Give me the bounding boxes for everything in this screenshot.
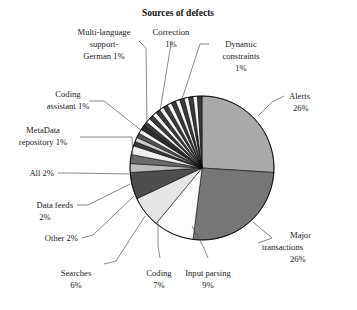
leader-line-metadata-repository	[80, 137, 133, 160]
pie-slices-group	[130, 96, 274, 240]
label-alerts-line1: Alerts	[289, 91, 311, 101]
label-searches: Searches 6%	[61, 268, 92, 290]
label-coding-line1: Coding	[146, 268, 172, 278]
leader-line-coding	[158, 222, 160, 258]
leader-line-data-feeds	[77, 184, 130, 205]
label-alerts: Alerts 26%	[289, 91, 311, 113]
leader-line-searches	[104, 216, 145, 264]
label-all-line1: All 2%	[29, 168, 54, 178]
label-coding-assistant: Coding assistant 1%	[47, 89, 90, 111]
leader-line-all	[58, 173, 129, 174]
label-correction-line2: 1%	[165, 39, 176, 49]
label-dynamic-constraints: Dynamic constraints 1%	[222, 39, 260, 73]
label-input-parsing: Input parsing 9%	[185, 268, 231, 290]
label-all: All 2%	[29, 168, 54, 178]
label-coding-line2: 7%	[153, 280, 164, 290]
label-metadata-repository: MetaData repository 1%	[19, 125, 67, 147]
label-major-line2: transactions	[262, 242, 304, 252]
label-major-transactions: Major transactions 26%	[262, 230, 311, 264]
label-input-parsing-line1: Input parsing	[185, 268, 231, 278]
label-input-parsing-line2: 9%	[202, 280, 213, 290]
leader-line-alerts	[258, 96, 284, 116]
label-metadata-line2: repository 1%	[19, 137, 67, 147]
leader-line-coding-assistant	[89, 101, 142, 131]
leader-line-multilang	[139, 41, 147, 124]
label-dynamic-line3: 1%	[235, 63, 246, 73]
leader-line-correction	[160, 42, 171, 111]
label-data-feeds-line2: 2%	[39, 212, 50, 222]
label-multilang-support-german: Multi-language support- German 1%	[78, 27, 131, 61]
leader-line-dynamic-constraints	[181, 44, 209, 102]
label-dynamic-line2: constraints	[222, 51, 260, 61]
label-data-feeds-line1: Data feeds	[36, 200, 73, 210]
label-multilang-line1: Multi-language	[78, 27, 131, 37]
leader-line-major-transactions	[253, 222, 272, 243]
label-coding-assistant-line2: assistant 1%	[47, 101, 90, 111]
label-correction: Correction 1%	[153, 27, 190, 49]
label-other: Other 2%	[45, 233, 78, 243]
label-data-feeds: Data feeds 2%	[36, 200, 73, 222]
label-multilang-line3: German 1%	[83, 51, 124, 61]
label-correction-line1: Correction	[153, 27, 190, 37]
label-multilang-line2: support-	[90, 39, 119, 49]
pie-slice[interactable]	[202, 96, 274, 173]
label-coding: Coding 7%	[146, 268, 172, 290]
figure-container: Sources of defects Alerts 26% Major	[0, 0, 357, 310]
leader-line-other	[82, 196, 134, 238]
label-major-line3: 26%	[290, 254, 306, 264]
label-major-line1: Major	[290, 230, 311, 240]
pie-chart-figure: Sources of defects Alerts 26% Major	[0, 0, 357, 310]
label-searches-line1: Searches	[61, 268, 92, 278]
label-coding-assistant-line1: Coding	[55, 89, 81, 99]
chart-title: Sources of defects	[142, 8, 214, 18]
label-searches-line2: 6%	[70, 280, 81, 290]
label-alerts-line2: 26%	[293, 103, 309, 113]
label-metadata-line1: MetaData	[26, 125, 60, 135]
label-dynamic-line1: Dynamic	[225, 39, 257, 49]
label-other-line1: Other 2%	[45, 233, 78, 243]
